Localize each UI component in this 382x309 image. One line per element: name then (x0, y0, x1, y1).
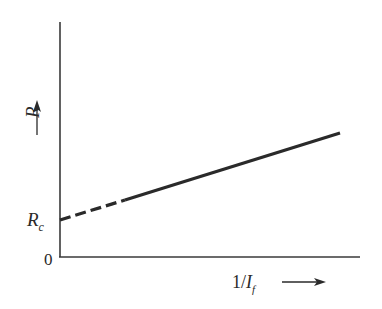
x-axis-label-main: 1/ (232, 272, 246, 292)
y-axis-label: R (22, 106, 44, 118)
origin-label: 0 (44, 250, 53, 270)
dashed-extrapolation-line (60, 200, 125, 220)
plot-canvas (0, 0, 382, 309)
x-arrow-icon (282, 278, 326, 286)
intercept-label-main: R (27, 209, 39, 230)
intercept-label-sub: c (39, 220, 44, 234)
intercept-label: Rc (27, 209, 44, 235)
solid-data-line (125, 133, 340, 200)
x-axis-label-sub: f (252, 283, 255, 295)
y-axis-label-text: R (22, 106, 43, 118)
x-axis-label: 1/If (232, 272, 255, 295)
